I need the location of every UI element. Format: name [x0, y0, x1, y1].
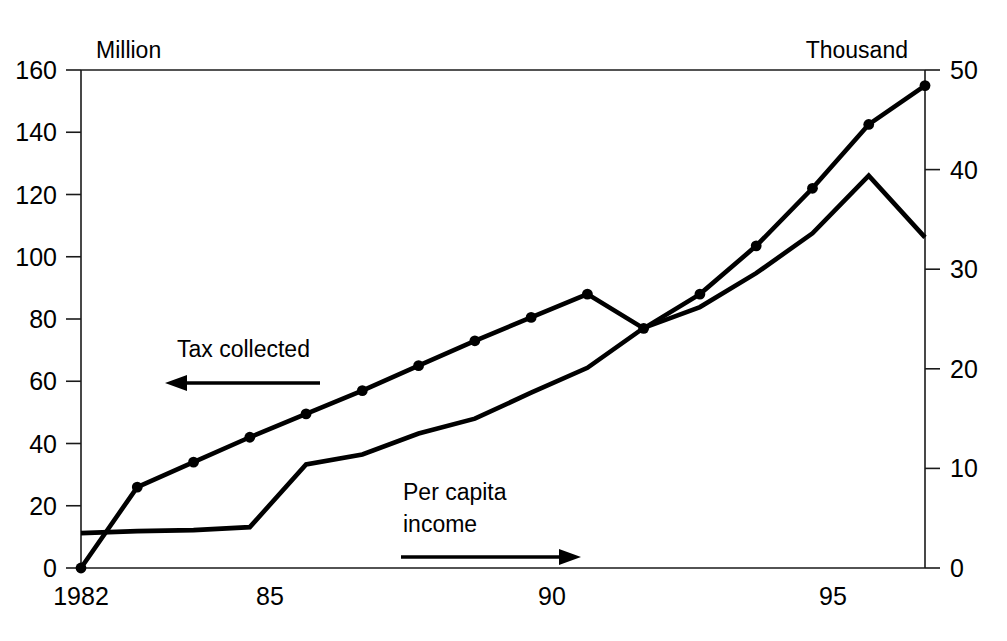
- right-tick-label-10: 10: [950, 454, 978, 482]
- x-tick-label-1982: 1982: [53, 582, 109, 610]
- chart-figure: 0 20 40 60 80 100 120 140 160 0 10 20 30…: [0, 0, 1007, 641]
- x-tick-label-95: 95: [819, 582, 847, 610]
- right-axis-ticks: [925, 70, 940, 568]
- x-tick-label-85: 85: [256, 582, 284, 610]
- per-capita-income-annotation-label-line2: income: [403, 511, 477, 537]
- left-axis-ticks: [66, 70, 81, 568]
- x-axis-tick-labels: 1982 85 90 95: [53, 582, 847, 610]
- data-point-marker: [244, 432, 255, 443]
- per-capita-income-annotation: Per capita income: [401, 479, 581, 565]
- data-point-marker: [526, 312, 537, 323]
- right-tick-label-0: 0: [950, 554, 964, 582]
- left-tick-label-0: 0: [43, 554, 57, 582]
- left-tick-label-80: 80: [29, 305, 57, 333]
- left-tick-label-120: 120: [15, 181, 57, 209]
- left-tick-label-60: 60: [29, 367, 57, 395]
- data-point-marker: [695, 289, 706, 300]
- right-tick-label-50: 50: [950, 56, 978, 84]
- left-tick-label-20: 20: [29, 492, 57, 520]
- chart-canvas: 0 20 40 60 80 100 120 140 160 0 10 20 30…: [0, 0, 1007, 641]
- left-tick-label-40: 40: [29, 430, 57, 458]
- left-axis-unit-label: Million: [96, 37, 161, 63]
- data-point-marker: [582, 289, 593, 300]
- per-capita-income-annotation-label-line1: Per capita: [403, 479, 507, 505]
- data-point-marker: [807, 183, 818, 194]
- right-axis-unit-label: Thousand: [806, 37, 908, 63]
- data-point-marker: [188, 457, 199, 468]
- left-tick-label-100: 100: [15, 243, 57, 271]
- data-point-marker: [920, 80, 931, 91]
- data-point-marker: [638, 323, 649, 334]
- data-point-marker: [301, 409, 312, 420]
- x-tick-label-90: 90: [538, 582, 566, 610]
- right-tick-label-30: 30: [950, 255, 978, 283]
- right-tick-label-40: 40: [950, 156, 978, 184]
- tax-collected-annotation-label: Tax collected: [177, 336, 310, 362]
- tax-collected-annotation: Tax collected: [165, 336, 320, 391]
- data-point-marker: [413, 360, 424, 371]
- left-axis-tick-labels: 0 20 40 60 80 100 120 140 160: [15, 56, 57, 582]
- right-axis-tick-labels: 0 10 20 30 40 50: [950, 56, 978, 582]
- data-point-marker: [357, 385, 368, 396]
- data-point-marker: [132, 482, 143, 493]
- left-tick-label-160: 160: [15, 56, 57, 84]
- data-point-marker: [469, 335, 480, 346]
- per-capita-income-arrow-head: [559, 549, 581, 565]
- data-point-marker: [751, 240, 762, 251]
- left-tick-label-140: 140: [15, 118, 57, 146]
- tax-collected-arrow-head: [165, 375, 187, 391]
- right-tick-label-20: 20: [950, 355, 978, 383]
- data-point-marker: [863, 119, 874, 130]
- data-point-marker: [76, 563, 87, 574]
